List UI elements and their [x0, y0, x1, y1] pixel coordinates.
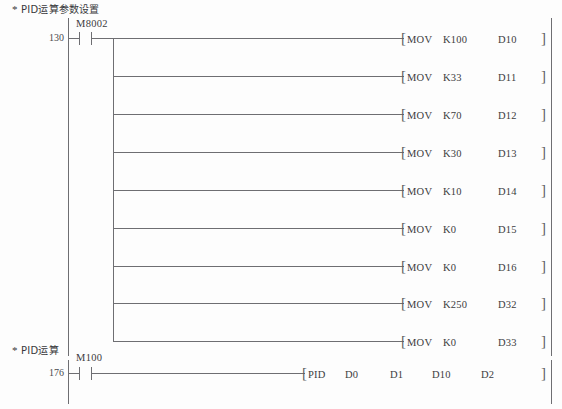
bracket-close-1: ]	[541, 31, 546, 46]
bracket-open-4: [	[401, 145, 406, 160]
bracket-open-6: [	[401, 221, 406, 236]
bracket-open-8: [	[401, 296, 406, 311]
contact-label-m8002: M8002	[76, 19, 108, 30]
operand-destination-5[interactable]: D14	[498, 186, 517, 197]
branch-wire-4	[113, 152, 404, 153]
operand-source-3[interactable]: K70	[443, 110, 462, 121]
bracket-open-9: [	[401, 334, 406, 349]
bracket-close-5: ]	[541, 183, 546, 198]
operand-destination-8[interactable]: D32	[498, 299, 517, 310]
comment-text-2: PID运算	[21, 345, 59, 356]
branch-wire-7	[113, 266, 404, 267]
operand-source-8[interactable]: K250	[443, 299, 467, 310]
operand-source-2[interactable]: K33	[443, 72, 462, 83]
left-power-rail-2	[68, 360, 69, 404]
operand-pid-4[interactable]: D2	[481, 369, 494, 380]
bracket-close-pid: ]	[541, 366, 546, 381]
bracket-open-2: [	[401, 69, 406, 84]
operand-source-6[interactable]: K0	[443, 224, 456, 235]
branch-wire-6	[113, 228, 404, 229]
operand-destination-7[interactable]: D16	[498, 262, 517, 273]
wire-rail-to-contact-1	[68, 38, 79, 39]
wire-rail-to-contact-2	[68, 373, 79, 374]
bracket-open-5: [	[401, 183, 406, 198]
wire-contact-to-pid	[92, 373, 305, 374]
instruction-mov-8[interactable]: MOV	[407, 299, 432, 310]
instruction-mov-2[interactable]: MOV	[407, 72, 432, 83]
bracket-open-pid: [	[302, 366, 307, 381]
bracket-close-7: ]	[541, 259, 546, 274]
right-power-rail-1	[551, 18, 552, 356]
operand-source-7[interactable]: K0	[443, 262, 456, 273]
ladder-diagram-canvas: * PID运算参数设置 130 M8002 [ MOV K100 D10 ] […	[0, 0, 562, 409]
operand-source-5[interactable]: K10	[443, 186, 462, 197]
bracket-open-7: [	[401, 259, 406, 274]
branch-wire-2	[113, 76, 404, 77]
comment-star-1: *	[12, 3, 18, 15]
operand-destination-9[interactable]: D33	[498, 337, 517, 348]
branch-wire-9	[113, 341, 404, 342]
bracket-close-3: ]	[541, 107, 546, 122]
contact-bar-left-1	[79, 32, 80, 45]
left-power-rail-1	[68, 18, 69, 356]
instruction-mov-6[interactable]: MOV	[407, 224, 432, 235]
operand-destination-2[interactable]: D11	[498, 72, 516, 83]
operand-source-9[interactable]: K0	[443, 337, 456, 348]
bracket-close-8: ]	[541, 296, 546, 311]
right-power-rail-2	[551, 360, 552, 404]
instruction-mov-7[interactable]: MOV	[407, 262, 432, 273]
branch-wire-3	[113, 114, 404, 115]
network-comment-2: * PID运算	[12, 345, 59, 356]
operand-destination-4[interactable]: D13	[498, 148, 517, 159]
operand-destination-6[interactable]: D15	[498, 224, 517, 235]
operand-source-4[interactable]: K30	[443, 148, 462, 159]
network-comment-1: * PID运算参数设置	[12, 4, 100, 15]
instruction-mov-9[interactable]: MOV	[407, 337, 432, 348]
step-number-1: 130	[38, 33, 64, 43]
bracket-close-4: ]	[541, 145, 546, 160]
contact-label-m100: M100	[76, 353, 102, 364]
contact-bar-left-2	[79, 367, 80, 380]
instruction-mov-3[interactable]: MOV	[407, 110, 432, 121]
branch-wire-8	[113, 303, 404, 304]
bracket-close-6: ]	[541, 221, 546, 236]
bracket-open-3: [	[401, 107, 406, 122]
comment-star-2: *	[12, 344, 18, 356]
instruction-mov-4[interactable]: MOV	[407, 148, 432, 159]
instruction-pid[interactable]: PID	[308, 369, 326, 380]
instruction-mov-1[interactable]: MOV	[407, 34, 432, 45]
operand-destination-1[interactable]: D10	[498, 34, 517, 45]
branch-wire-1	[113, 38, 404, 39]
contact-m100[interactable]	[79, 367, 92, 380]
contact-m8002[interactable]	[79, 32, 92, 45]
comment-text-1: PID运算参数设置	[21, 4, 99, 15]
wire-contact-to-trunk-1	[92, 38, 114, 39]
operand-source-1[interactable]: K100	[443, 34, 467, 45]
bracket-open-1: [	[401, 31, 406, 46]
operand-pid-3[interactable]: D10	[432, 369, 451, 380]
bracket-close-9: ]	[541, 334, 546, 349]
branch-wire-5	[113, 190, 404, 191]
step-number-2: 176	[38, 368, 64, 378]
operand-destination-3[interactable]: D12	[498, 110, 517, 121]
operand-pid-1[interactable]: D0	[345, 369, 358, 380]
operand-pid-2[interactable]: D1	[390, 369, 403, 380]
instruction-mov-5[interactable]: MOV	[407, 186, 432, 197]
bracket-close-2: ]	[541, 69, 546, 84]
